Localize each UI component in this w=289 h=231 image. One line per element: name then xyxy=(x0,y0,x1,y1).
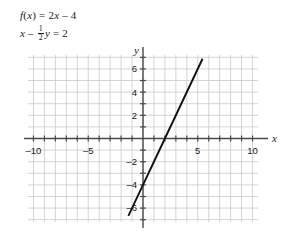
x-tick-label: 5 xyxy=(195,145,200,156)
y-tick-label: 6 xyxy=(132,63,137,74)
y-tick-label: –6 xyxy=(126,202,137,213)
x-tick-label: 10 xyxy=(247,145,258,156)
equation-list: f(x) = 2x – 4 x – 12y = 2 xyxy=(20,6,170,42)
equation-function-form: f(x) = 2x – 4 xyxy=(20,6,170,24)
y-tick-label: 4 xyxy=(132,87,137,98)
x-axis-label: x xyxy=(271,132,277,144)
x-tick-label: –10 xyxy=(26,145,42,156)
y-axis-label: y xyxy=(133,44,139,56)
line-series xyxy=(129,60,202,215)
plotted-line xyxy=(129,60,202,215)
fraction-denominator: 2 xyxy=(38,33,44,42)
equation2-fraction: 12 xyxy=(38,25,44,43)
y-tick-label: 2 xyxy=(132,110,137,121)
graph-figure: f(x) = 2x – 4 x – 12y = 2 –10–5510642–2–… xyxy=(0,0,289,231)
equation2-minus: – xyxy=(25,27,37,39)
y-tick-label: –4 xyxy=(126,179,137,190)
y-tick-label: –2 xyxy=(126,156,137,167)
fraction-numerator: 1 xyxy=(38,25,44,33)
equation1-equals-coeff: = 2 xyxy=(36,9,54,21)
coordinate-plane: –10–5510642–2–4–6 x y xyxy=(0,42,289,231)
equation-standard-form: x – 12y = 2 xyxy=(20,24,170,42)
equation1-constant: – 4 xyxy=(59,9,76,21)
axis-lines xyxy=(24,47,268,228)
graph-svg: –10–5510642–2–4–6 x y xyxy=(0,42,289,231)
x-tick-label: –5 xyxy=(83,145,94,156)
equation2-equals-constant: = 2 xyxy=(50,27,68,39)
